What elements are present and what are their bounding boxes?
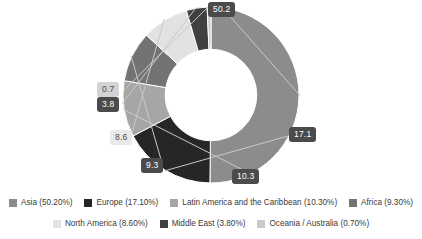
legend-item-label: Asia (50.20%)	[21, 199, 72, 207]
legend-item[interactable]: Oceania / Australia (0.70%)	[257, 220, 369, 228]
legend-item[interactable]: Asia (50.20%)	[9, 199, 72, 207]
legend-item[interactable]: Middle East (3.80%)	[160, 220, 246, 228]
donut-slice	[210, 7, 299, 183]
data-label-latin-america: 10.3	[232, 169, 259, 184]
legend-swatch-icon	[84, 199, 92, 207]
legend-item-label: Africa (9.30%)	[361, 199, 413, 207]
legend-swatch-icon	[53, 220, 61, 228]
legend-item-label: Oceania / Australia (0.70%)	[269, 220, 369, 228]
legend-swatch-icon	[257, 220, 265, 228]
data-label-middle-east: 3.8	[97, 97, 119, 112]
legend-item[interactable]: Europe (17.10%)	[84, 199, 158, 207]
chart-legend: Asia (50.20%)Europe (17.10%)Latin Americ…	[0, 193, 422, 239]
legend-swatch-icon	[9, 199, 17, 207]
legend-swatch-icon	[349, 199, 357, 207]
legend-item-label: Middle East (3.80%)	[172, 220, 246, 228]
legend-item-label: Latin America and the Caribbean (10.30%)	[182, 199, 337, 207]
legend-item[interactable]: North America (8.60%)	[53, 220, 148, 228]
legend-row-primary: Asia (50.20%)Europe (17.10%)Latin Americ…	[0, 193, 422, 214]
legend-row-secondary: North America (8.60%)Middle East (3.80%)…	[0, 214, 422, 235]
data-label-europe: 17.1	[289, 127, 316, 142]
data-label-africa: 9.3	[141, 158, 163, 173]
legend-item[interactable]: Latin America and the Caribbean (10.30%)	[170, 199, 337, 207]
data-label-oceania: 0.7	[97, 82, 119, 97]
legend-item-label: Europe (17.10%)	[96, 199, 158, 207]
legend-item[interactable]: Africa (9.30%)	[349, 199, 413, 207]
legend-swatch-icon	[170, 199, 178, 207]
data-label-north-america: 8.6	[110, 130, 132, 145]
legend-swatch-icon	[160, 220, 168, 228]
data-label-asia: 50.2	[208, 2, 235, 17]
donut-chart: 50.2 17.1 10.3 9.3 8.6 3.8 0.7	[0, 0, 422, 192]
legend-item-label: North America (8.60%)	[65, 220, 148, 228]
donut-slices	[123, 7, 299, 183]
donut-chart-graphic	[0, 0, 422, 192]
